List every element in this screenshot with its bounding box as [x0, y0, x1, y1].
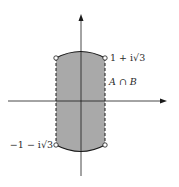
label-top-right-point: 1 + i√3 — [110, 52, 145, 63]
label-region: A ∩ B — [108, 76, 137, 87]
real-axis-arrow-icon — [160, 99, 167, 104]
point-top-left-icon — [54, 56, 58, 60]
intersection-region — [56, 52, 105, 152]
point-bottom-right-icon — [103, 143, 107, 147]
label-bottom-left-point: −1 − i√3 — [10, 139, 53, 150]
complex-plane-diagram: 1 + i√3 A ∩ B −1 − i√3 — [0, 0, 179, 187]
point-top-right-icon — [103, 56, 107, 60]
point-bottom-left-icon — [54, 143, 58, 147]
imaginary-axis-arrow-icon — [79, 14, 84, 21]
